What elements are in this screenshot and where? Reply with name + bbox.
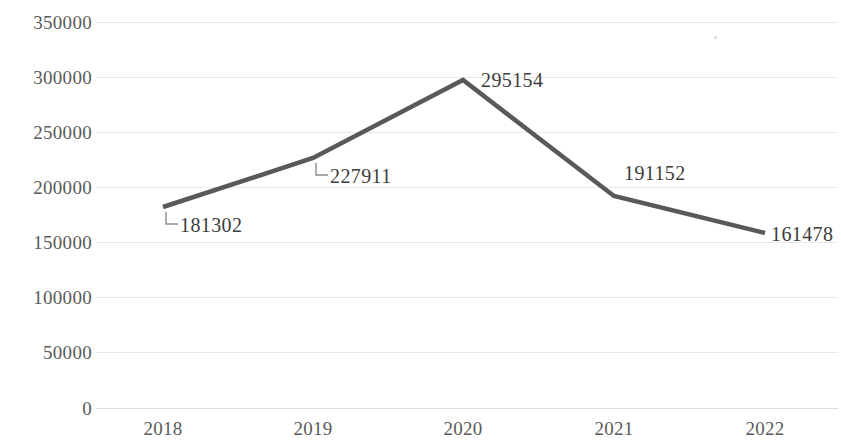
data-label-2020: 295154: [481, 70, 543, 90]
x-tick-label: 2019: [293, 418, 332, 439]
line-chart: 350000 300000 250000 200000 150000 10000…: [0, 0, 841, 444]
leader-line-2019: [316, 163, 328, 175]
leader-line-2018: [166, 212, 178, 224]
data-label-2018: 181302: [180, 215, 242, 235]
x-tick-label: 2018: [143, 418, 182, 439]
plot-area: [0, 0, 841, 444]
data-label-2019: 227911: [330, 166, 392, 186]
x-axis-labels: 2018 2019 2020 2021 2022: [96, 418, 838, 444]
x-tick-label: 2020: [443, 418, 482, 439]
data-label-2021: 191152: [624, 163, 686, 183]
x-tick-label: 2021: [594, 418, 633, 439]
data-label-2022: 161478: [771, 224, 833, 244]
series-line: [163, 80, 765, 233]
x-tick-label: 2022: [745, 418, 784, 439]
